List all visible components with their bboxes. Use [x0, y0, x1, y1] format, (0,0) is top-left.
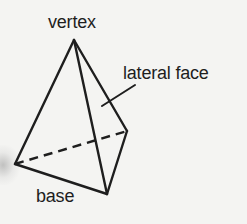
edge-apex-base-front: [74, 40, 107, 194]
edge-base-hidden-dashed: [15, 131, 127, 164]
base-label: base: [36, 187, 74, 205]
vertex-label: vertex: [48, 13, 96, 31]
edge-base-front-back-right: [107, 131, 127, 194]
edge-apex-base-left: [15, 40, 74, 164]
lateral-face-label: lateral face: [123, 64, 209, 82]
edge-apex-base-back-right: [74, 40, 127, 131]
